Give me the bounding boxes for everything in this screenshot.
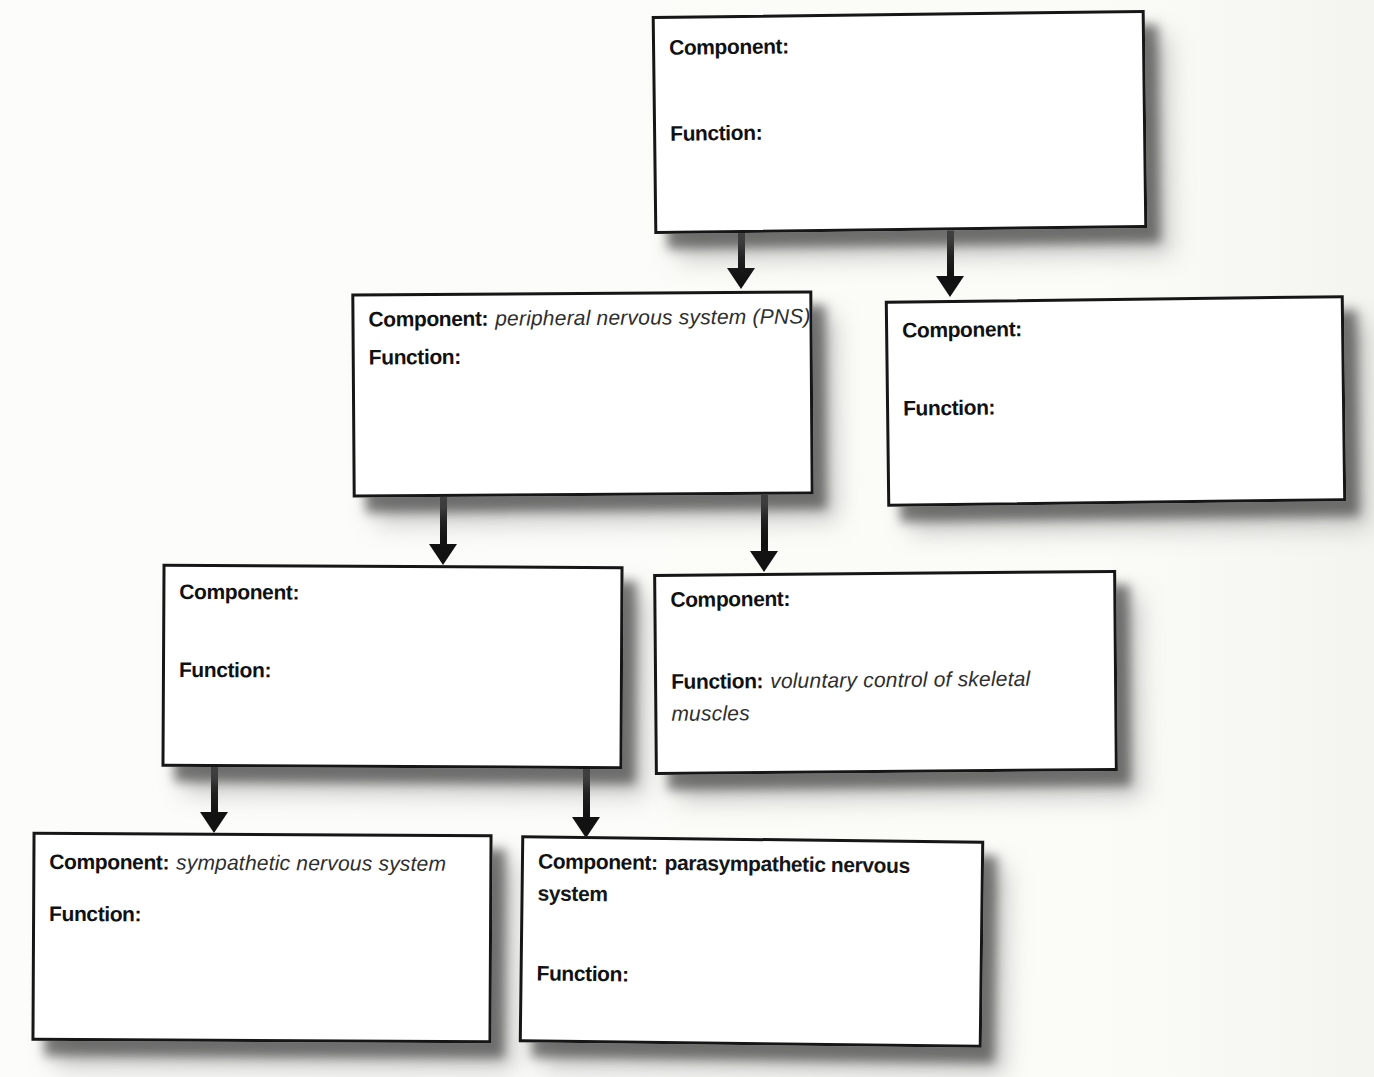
node-peripheral-nervous-system: Component:peripheral nervous system (PNS…	[351, 290, 813, 497]
function-line: Function:	[179, 655, 602, 689]
component-label: Component:	[669, 34, 789, 58]
arrow-head	[750, 551, 778, 572]
arrow-head	[936, 276, 964, 297]
component-line: Component:	[669, 27, 1124, 65]
function-label: Function:	[903, 395, 995, 419]
node-level3-right: Component: Function:voluntary control of…	[653, 570, 1118, 775]
node-level2-right: Component: Function:	[885, 295, 1346, 507]
component-label: Component:	[538, 849, 658, 873]
component-label: Component:	[902, 317, 1022, 341]
function-label: Function:	[49, 902, 141, 925]
component-line: Component:sympathetic nervous system	[49, 847, 471, 881]
function-line: Function:	[49, 899, 471, 933]
component-line: Component:	[902, 310, 1323, 347]
arrow-stem	[761, 494, 768, 551]
function-line: Function:voluntary control of skeletal m…	[671, 663, 1072, 730]
function-line: Function:	[369, 340, 792, 375]
component-value: sympathetic nervous system	[176, 851, 446, 875]
arrow-root-to-pns	[727, 228, 755, 289]
arrow-head	[429, 544, 457, 565]
arrow-stem	[583, 767, 590, 817]
component-label: Component:	[179, 580, 299, 604]
component-line: Component:	[670, 581, 1095, 617]
function-label: Function:	[671, 669, 763, 693]
arrow-pns-to-right	[750, 494, 778, 572]
function-label: Function:	[179, 658, 271, 681]
function-label: Function:	[369, 345, 461, 369]
component-line: Component:parasympathetic nervous system	[537, 846, 930, 915]
component-value: peripheral nervous system (PNS)	[495, 304, 811, 329]
arrow-stem	[947, 226, 954, 276]
arrow-head	[727, 268, 755, 289]
arrow-head	[200, 812, 228, 833]
arrow-head	[572, 817, 600, 838]
function-label: Function:	[670, 121, 762, 145]
component-label: Component:	[368, 307, 488, 331]
component-label: Component:	[670, 587, 790, 611]
node-sympathetic-nervous-system: Component:sympathetic nervous system Fun…	[31, 832, 492, 1043]
arrow-stem	[738, 228, 745, 268]
function-label: Function:	[536, 961, 628, 985]
arrow-left-to-sympathetic	[200, 764, 228, 833]
arrow-pns-to-left	[429, 492, 457, 565]
node-level3-left: Component: Function:	[161, 564, 623, 769]
arrow-root-to-right	[936, 226, 964, 297]
arrow-stem	[211, 764, 218, 812]
worksheet-page: Component: Function: Component:periphera…	[0, 0, 1374, 1077]
component-line: Component:peripheral nervous system (PNS…	[368, 302, 791, 337]
component-line: Component:	[179, 577, 602, 611]
node-parasympathetic-nervous-system: Component:parasympathetic nervous system…	[519, 835, 984, 1048]
arrow-left-to-parasympathetic	[572, 767, 600, 838]
component-label: Component:	[49, 850, 169, 874]
function-line: Function:	[670, 113, 1125, 151]
function-line: Function:	[536, 958, 961, 995]
function-line: Function:	[903, 388, 1324, 425]
arrow-stem	[440, 492, 447, 544]
node-root: Component: Function:	[652, 10, 1148, 234]
